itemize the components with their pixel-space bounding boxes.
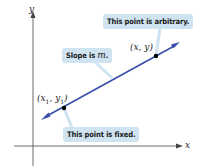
lp-a: (x [37,93,46,103]
x-axis-label: x [185,140,190,150]
callout-fixed: This point is fixed. [63,127,139,142]
fixed-point [62,106,66,110]
leader-slope [95,62,112,78]
lp-mid: , y [49,93,60,103]
label-arbitrary-point: (x, y) [130,42,153,52]
slope-var: m [97,50,105,60]
label-fixed-point: (x1, y1) [37,93,68,105]
line-arrow-left-icon [41,113,51,121]
slope-suffix: . [106,51,108,60]
slope-prefix: Slope is [66,51,97,60]
lp-end: ) [64,93,68,103]
y-axis-label: y [29,4,34,14]
x-axis-arrow-icon [176,144,183,149]
callout-arbitrary: This point is arbitrary. [103,14,193,29]
arbitrary-point [154,54,158,58]
leader-fixed [64,108,72,128]
callout-slope: Slope is m. [62,48,112,63]
leader-arbitrary [156,28,160,56]
